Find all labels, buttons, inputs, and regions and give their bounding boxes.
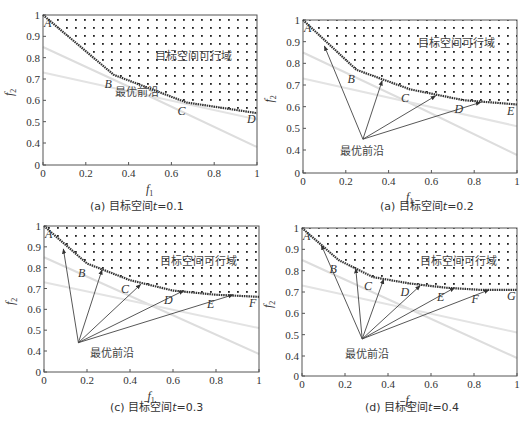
xtick-label: 0.2 [339, 175, 353, 187]
chart-panel-b: ABCDE10.90.80.70.60.50.4000.20.40.60.81f… [262, 14, 520, 206]
point-label-D: D [163, 293, 173, 307]
ytick-label: 0.8 [27, 262, 41, 274]
ytick-label: 0.7 [26, 73, 40, 85]
ytick-label: 0.9 [27, 241, 41, 253]
xtick-label: 0 [299, 378, 305, 390]
ytick-label: 0.7 [286, 79, 300, 91]
point-label-D: D [454, 102, 464, 116]
ytick-label: 0.7 [285, 286, 299, 298]
arrow [356, 269, 362, 339]
y-axis-label: f2 [2, 89, 18, 96]
ytick-label: 0.4 [285, 350, 299, 362]
xtick-label: 0.6 [165, 167, 179, 179]
arrow [63, 249, 78, 343]
point-label-A: A [43, 16, 52, 30]
ytick-label: 1 [35, 9, 41, 21]
feasible-region [303, 20, 517, 105]
optimal-front-label: 最优前沿 [115, 85, 159, 99]
xtick-label: 0.2 [79, 167, 93, 179]
xtick-label: 1 [514, 175, 520, 187]
ytick-label: 0.6 [26, 94, 40, 106]
feasible-region-label: 目标空间可行域 [155, 49, 232, 63]
ytick-label: 0.5 [286, 122, 300, 134]
optimal-front-label: 最优前沿 [345, 347, 389, 361]
point-label-A: A [302, 229, 311, 243]
point-label-C: C [177, 104, 186, 118]
xtick-label: 0.4 [381, 378, 395, 390]
caption-b: (a) 目标空间t=0.2 [380, 199, 474, 213]
xtick-label: 1 [256, 374, 262, 386]
y-axis-label: f2 [262, 95, 278, 102]
point-label-A: A [44, 227, 53, 241]
ytick-label: 0.9 [285, 243, 299, 255]
ytick-label: 0.8 [26, 52, 40, 64]
xtick-label: 0.2 [338, 378, 352, 390]
xtick-label: 0.6 [425, 175, 439, 187]
point-label-D: D [246, 112, 256, 126]
xtick-label: 0.2 [80, 374, 94, 386]
point-label-G: G [507, 289, 516, 303]
xtick-label: 1 [254, 167, 260, 179]
feasible-region-label: 目标空间可行域 [420, 254, 497, 268]
point-label-E: E [506, 104, 515, 118]
ytick-label: 0.5 [27, 324, 41, 336]
chart-panel-d: ABCDEFG10.90.80.70.60.50.4000.20.40.60.8… [261, 222, 520, 409]
ytick-label: 0.6 [27, 303, 41, 315]
ytick-label: 0.8 [286, 57, 300, 69]
point-label-C: C [364, 279, 373, 293]
ytick-label: 0.4 [26, 137, 40, 149]
point-label-E: E [436, 290, 445, 304]
point-label-B: B [105, 77, 113, 91]
ytick-label: 0.6 [285, 307, 299, 319]
xtick-label: 0.8 [209, 374, 223, 386]
point-label-F: F [470, 292, 479, 306]
caption-a: (a) 目标空间t=0.1 [90, 199, 184, 213]
figure: ABCD10.90.80.70.60.50.4000.20.40.60.81f1… [0, 0, 529, 436]
point-label-B: B [78, 266, 86, 280]
ytick-label: 0.8 [285, 265, 299, 277]
point-label-C: C [401, 91, 410, 105]
ytick-label: 1 [36, 220, 42, 232]
point-label-F: F [248, 296, 257, 310]
x-axis-label: f1 [146, 182, 153, 198]
ytick-label: 0.4 [286, 144, 300, 156]
arrow [362, 286, 420, 339]
ytick-label: 0.6 [286, 101, 300, 113]
point-label-E: E [206, 297, 215, 311]
xtick-label: 0.8 [467, 378, 481, 390]
xtick-label: 0.6 [166, 374, 180, 386]
optimal-front-label: 最优前沿 [340, 144, 384, 158]
xtick-label: 0 [40, 167, 46, 179]
ytick-label: 0.9 [26, 30, 40, 42]
ytick-label: 1 [294, 222, 300, 234]
xtick-label: 0.4 [382, 175, 396, 187]
ytick-label: 0.9 [286, 36, 300, 48]
xtick-label: 0 [41, 374, 47, 386]
xtick-label: 0.8 [207, 167, 221, 179]
guide-curve [302, 286, 517, 333]
ytick-label: 0.5 [26, 116, 40, 128]
arrow [363, 96, 436, 139]
chart-panel-c: ABCDEF10.90.80.70.60.50.4000.20.40.60.81… [3, 220, 262, 405]
xtick-label: 0 [300, 175, 306, 187]
point-label-B: B [348, 72, 356, 86]
xtick-label: 0.4 [123, 374, 137, 386]
xtick-label: 0.6 [424, 378, 438, 390]
ytick-label: 0.7 [27, 283, 41, 295]
point-label-A: A [303, 21, 312, 35]
point-label-C: C [121, 282, 130, 296]
caption-c: (c) 目标空间t=0.3 [110, 400, 203, 414]
y-axis-label: f2 [3, 298, 19, 305]
xtick-label: 1 [514, 378, 520, 390]
caption-d: (d) 目标空间t=0.4 [365, 400, 459, 414]
feasible-region-label: 目标空间可行域 [160, 254, 237, 268]
y-axis-label: f2 [261, 301, 277, 308]
xtick-label: 0.8 [467, 175, 481, 187]
point-label-B: B [330, 262, 338, 276]
arrow [363, 81, 382, 140]
arrow [362, 290, 489, 339]
ytick-label: 1 [295, 14, 301, 26]
xtick-label: 0.4 [122, 167, 136, 179]
ytick-label: 0.5 [285, 329, 299, 341]
ytick-label: 0.4 [27, 345, 41, 357]
